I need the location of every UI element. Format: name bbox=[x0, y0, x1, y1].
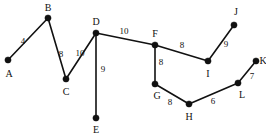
graph-node-b[interactable] bbox=[45, 15, 51, 21]
graph-edge-i-j bbox=[208, 25, 234, 61]
node-label-a: A bbox=[5, 69, 12, 79]
graph-node-a[interactable] bbox=[5, 57, 11, 63]
edge-weight-a-b: 4 bbox=[21, 37, 26, 46]
node-label-j: J bbox=[234, 7, 238, 17]
graph-node-j[interactable] bbox=[231, 22, 237, 28]
node-label-i: I bbox=[206, 69, 209, 79]
edge-weight-g-h: 8 bbox=[168, 98, 173, 107]
edge-weight-c-d: 10 bbox=[76, 49, 85, 58]
edge-weight-f-i: 8 bbox=[180, 41, 185, 50]
node-label-l: L bbox=[239, 90, 245, 100]
weighted-graph-figure: 4810910889867ABCDEFGHIJKL bbox=[0, 0, 266, 137]
graph-canvas bbox=[0, 0, 266, 137]
nodes-layer bbox=[5, 15, 259, 121]
graph-node-l[interactable] bbox=[235, 80, 241, 86]
edge-weight-d-f: 10 bbox=[120, 27, 129, 36]
node-label-e: E bbox=[93, 125, 99, 135]
node-label-d: D bbox=[92, 17, 99, 27]
edge-weight-i-j: 9 bbox=[224, 40, 229, 49]
node-label-b: B bbox=[45, 3, 52, 13]
graph-node-e[interactable] bbox=[93, 115, 99, 121]
graph-node-i[interactable] bbox=[205, 58, 211, 64]
graph-node-g[interactable] bbox=[152, 81, 158, 87]
node-label-h: H bbox=[185, 112, 192, 122]
edges-layer bbox=[8, 18, 256, 118]
edge-weight-h-l: 6 bbox=[211, 97, 216, 106]
edge-weight-f-g: 8 bbox=[159, 58, 164, 67]
node-label-f: F bbox=[152, 29, 158, 39]
graph-node-f[interactable] bbox=[152, 42, 158, 48]
graph-node-d[interactable] bbox=[93, 30, 99, 36]
node-label-k: K bbox=[259, 56, 266, 66]
graph-node-k[interactable] bbox=[253, 58, 259, 64]
node-label-g: G bbox=[153, 91, 160, 101]
edge-weight-b-c: 8 bbox=[59, 50, 64, 59]
edge-weight-l-k: 7 bbox=[250, 72, 255, 81]
node-label-c: C bbox=[63, 87, 70, 97]
graph-edge-a-b bbox=[8, 18, 48, 60]
graph-node-c[interactable] bbox=[63, 76, 69, 82]
graph-node-h[interactable] bbox=[186, 101, 192, 107]
edge-weight-d-e: 9 bbox=[101, 65, 106, 74]
